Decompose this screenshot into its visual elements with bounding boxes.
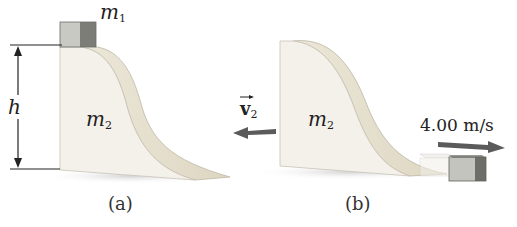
panel-a <box>10 22 230 184</box>
caption-b: (b) <box>345 193 371 214</box>
label-m2-b: m2 <box>308 107 334 132</box>
block-m1-moving <box>449 155 486 181</box>
label-speed: 4.00 m/s <box>420 115 494 135</box>
label-h: h <box>7 95 22 119</box>
caption-a: (a) <box>108 193 133 214</box>
diagram-stage: m1 h m2 (a) v2 m2 4.00 m/s (b) <box>0 0 517 227</box>
arrow-right-icon <box>438 141 505 153</box>
arrow-left-icon <box>233 127 276 139</box>
label-m2-a: m2 <box>86 107 112 132</box>
block-m1 <box>60 22 96 47</box>
label-v2: v2 <box>240 98 257 121</box>
panel-b <box>233 41 505 181</box>
label-m1: m1 <box>100 0 126 25</box>
